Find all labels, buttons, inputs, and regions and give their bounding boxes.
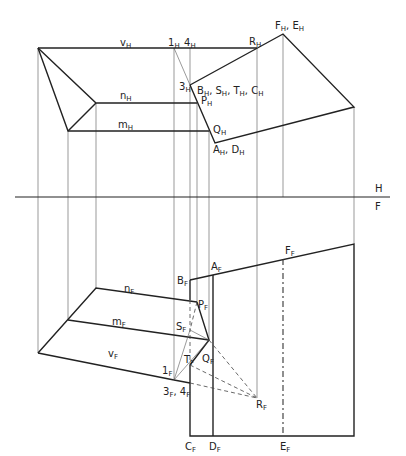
point-label-tf: TF <box>184 355 194 367</box>
point-label-nh: nH <box>120 91 132 103</box>
point-label-fheh: FH, EH <box>275 21 304 33</box>
point-label-bf: BF <box>177 276 188 288</box>
point-label-cf: CF <box>185 442 196 454</box>
top-view <box>38 34 354 143</box>
point-label-ff: FF <box>285 246 295 258</box>
point-label-df: DF <box>209 442 221 454</box>
point-label-qh: QH <box>213 125 226 137</box>
point-label-ph: PH <box>201 96 212 108</box>
point-label-vf: vF <box>108 349 118 361</box>
point-label-vh: vH <box>120 38 131 50</box>
front-view <box>38 244 354 436</box>
point-label-pf: PF <box>198 300 208 312</box>
point-label-ahdh: AH, DH <box>213 145 244 157</box>
point-label-af: AF <box>211 262 222 274</box>
point-label-4h: 4H <box>184 38 196 50</box>
point-label-qf: QF <box>202 354 214 366</box>
point-label-3h: 3H <box>179 82 191 94</box>
point-label-34f: 3F, 4F <box>163 387 190 399</box>
point-label-mf: mF <box>112 317 126 329</box>
point-label-nf: nF <box>124 284 134 296</box>
fold-label-h: H <box>375 184 383 194</box>
point-label-ef: EF <box>280 442 290 454</box>
point-label-mh: mH <box>118 120 133 132</box>
point-label-1f: 1F <box>162 366 172 378</box>
point-label-rf: RF <box>256 400 267 412</box>
fold-label-f: F <box>375 202 381 212</box>
projection-lines <box>38 34 354 398</box>
point-label-rh: RH <box>249 37 261 49</box>
projection-drawing <box>0 0 406 456</box>
point-label-1h: 1H <box>168 38 180 50</box>
point-label-sf: SF <box>176 322 186 334</box>
